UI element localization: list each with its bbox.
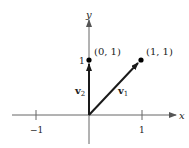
point-0-1 [86,57,91,62]
vector-label-v1: v1 [117,85,128,98]
point-label-1-1: (1, 1) [146,46,173,57]
vector-v1 [89,63,138,115]
vector-diagram: y x −1 1 1 (0, 1) (1, 1) v2 v1 [0,0,189,148]
x-tick-label-1: 1 [139,125,145,135]
y-tick-label-1: 1 [79,56,85,66]
point-1-1 [138,57,143,62]
point-label-0-1: (0, 1) [94,46,121,57]
x-tick-label-neg1: −1 [30,125,43,135]
x-axis-label: x [179,110,185,121]
y-axis-label: y [85,9,92,20]
vector-label-v2: v2 [74,85,85,98]
